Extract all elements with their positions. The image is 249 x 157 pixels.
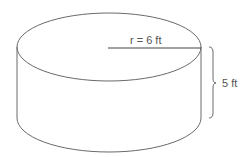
- cylinder-diagram: r = 6 ft 5 ft: [0, 0, 249, 157]
- radius-label: r = 6 ft: [130, 34, 162, 46]
- cylinder-bottom-arc: [17, 118, 201, 152]
- cylinder-top-ellipse: [17, 13, 201, 81]
- height-brace: [209, 47, 216, 118]
- height-label: 5 ft: [222, 77, 237, 89]
